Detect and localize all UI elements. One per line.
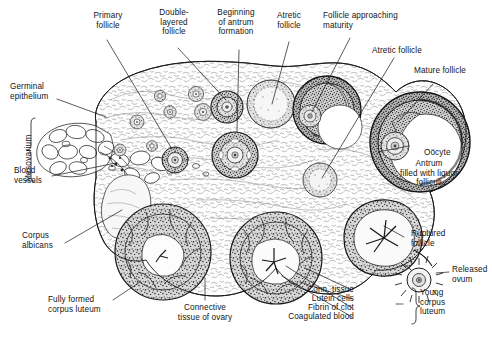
label-primary-follicle: Primary follicle bbox=[84, 11, 132, 30]
label-coagulated-blood: Coagulated blood bbox=[276, 312, 354, 322]
label-double-layered-follicle: Double- layered follicle bbox=[148, 8, 200, 37]
label-antrum: Antrum filled with liquor folliculi bbox=[379, 159, 479, 188]
label-blood-vessels: Blood vessels bbox=[14, 166, 58, 185]
label-young-corpus-luteum: Young corpus luteum bbox=[420, 288, 464, 317]
label-connective-tissue-of-ovary: Connective tissue of ovary bbox=[165, 303, 245, 322]
label-germinal-epithelium: Germinal epithelium bbox=[10, 82, 66, 101]
cumulus-oophorus bbox=[299, 105, 321, 127]
label-fully-formed-corpus-luteum: Fully formed corpus luteum bbox=[48, 295, 120, 314]
label-oocyte: Oöcyte bbox=[424, 148, 466, 158]
leader-released-ovum bbox=[436, 272, 449, 273]
atretic-follicle-right bbox=[303, 163, 337, 197]
brace-clot-list bbox=[412, 288, 420, 324]
label-ruptured-follicle: Ruptured follicle bbox=[411, 229, 465, 248]
primary-follicle bbox=[162, 147, 188, 173]
label-mature-follicle: Mature follicle bbox=[414, 66, 490, 76]
antrum-forming-follicle bbox=[212, 132, 258, 178]
oocyte-structure bbox=[381, 132, 409, 160]
label-corpus-albicans: Corpus albicans bbox=[22, 231, 70, 250]
label-atretic-follicle-top: Atretic follicle bbox=[268, 11, 310, 30]
fully-formed-corpus-luteum bbox=[115, 204, 211, 300]
label-beginning-antrum: Beginning of antrum formation bbox=[207, 8, 265, 37]
label-follicle-approaching-maturity: Follicle approaching maturity bbox=[323, 11, 435, 30]
label-atretic-follicle-right: Atretic follicle bbox=[372, 46, 456, 56]
label-released-ovum: Released ovum bbox=[452, 265, 492, 284]
atretic-follicle-top bbox=[247, 80, 295, 128]
